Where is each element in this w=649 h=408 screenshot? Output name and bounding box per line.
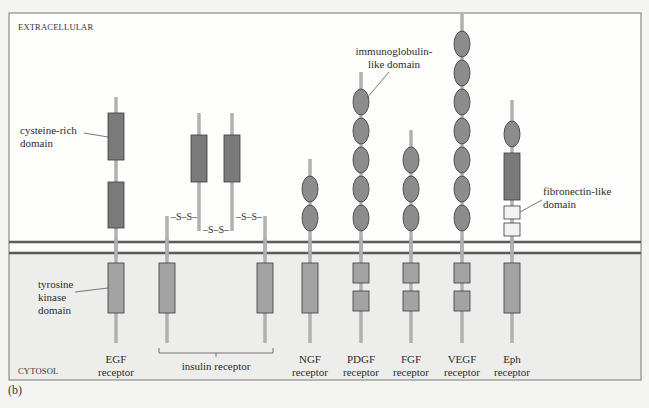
tyrosine-kinase-domain — [302, 263, 318, 313]
receptor-label-line1: Eph — [494, 353, 530, 366]
ig-domain — [353, 205, 369, 231]
ig-domain — [403, 147, 419, 173]
ig-domain — [454, 205, 470, 231]
tyrosine-kinase-domain — [257, 263, 273, 313]
kinase-domain-upper — [454, 263, 470, 283]
tyrosine-kinase-domain — [159, 263, 175, 313]
pdgf-receptor-label: PDGF receptor — [343, 353, 379, 379]
disulfide-bond-right: –S–S– — [236, 210, 262, 223]
panel-letter-b: (b) — [8, 383, 22, 398]
ig-domain — [454, 31, 470, 57]
ig-domain — [302, 205, 318, 231]
egf-receptor-label: EGF receptor — [98, 353, 134, 379]
ig-domain — [302, 176, 318, 202]
annotation-line: fibronectin-like — [543, 185, 611, 198]
kinase-domain-lower — [403, 291, 419, 311]
fibronectin-annotation: fibronectin-like domain — [543, 185, 611, 211]
kinase-domain-upper — [353, 263, 369, 283]
ig-domain — [403, 176, 419, 202]
ig-domain — [353, 118, 369, 144]
fibronectin-like-domain — [504, 223, 520, 236]
cysteine-rich-domain — [108, 113, 124, 160]
annotation-line: immunoglobulin- — [356, 45, 433, 58]
ig-domain — [454, 60, 470, 86]
fgf-receptor-label: FGF receptor — [393, 353, 429, 379]
cysteine-rich-domain — [504, 153, 520, 200]
annotation-line: cysteine-rich — [20, 124, 77, 137]
receptor-label-line2: receptor — [494, 366, 530, 379]
tyrosine-kinase-domain — [108, 263, 124, 313]
ig-domain — [353, 89, 369, 115]
disulfide-bond-middle: –S–S– — [203, 223, 229, 236]
receptor-label-line2: receptor — [292, 366, 328, 379]
insulin-receptor-label: insulin receptor — [182, 360, 251, 373]
cysteine-rich-domain — [108, 182, 124, 228]
receptor-label-line1: NGF — [292, 353, 328, 366]
fibronectin-like-domain — [504, 206, 520, 219]
ig-domain-annotation: immunoglobulin- like domain — [356, 45, 433, 71]
ig-domain — [454, 147, 470, 173]
ig-domain — [353, 147, 369, 173]
ig-domain — [504, 121, 520, 147]
annotation-line: tyrosine — [38, 278, 73, 291]
cysteine-rich-domain — [224, 135, 240, 182]
cysteine-rich-domain — [191, 135, 207, 182]
kinase-domain-upper — [403, 263, 419, 283]
receptor-label-line1: PDGF — [343, 353, 379, 366]
vegf-receptor-label: VEGF receptor — [444, 353, 480, 379]
kinase-domain-lower — [353, 291, 369, 311]
receptor-label-line2: receptor — [444, 366, 480, 379]
receptor-label-line2: receptor — [343, 366, 379, 379]
receptor-label-line1: EGF — [98, 353, 134, 366]
cytosol-label: CYTOSOL — [18, 366, 58, 376]
cysteine-rich-annotation: cysteine-rich domain — [20, 124, 77, 150]
annotation-line: domain — [543, 198, 611, 211]
annotation-line: domain — [20, 137, 77, 150]
receptor-label-line1: VEGF — [444, 353, 480, 366]
membrane-gap — [9, 242, 641, 253]
tyrosine-kinase-domain — [504, 263, 520, 313]
ig-domain — [353, 176, 369, 202]
ngf-receptor-label: NGF receptor — [292, 353, 328, 379]
tyrosine-kinase-annotation: tyrosine kinase domain — [38, 278, 73, 317]
annotation-line: domain — [38, 304, 73, 317]
ig-domain — [454, 89, 470, 115]
annotation-line: like domain — [356, 58, 433, 71]
annotation-line: kinase — [38, 291, 73, 304]
eph-receptor-label: Eph receptor — [494, 353, 530, 379]
ig-domain — [454, 118, 470, 144]
receptor-label-line1: FGF — [393, 353, 429, 366]
receptor-tyrosine-kinase-diagram: EXTRACELLULAR CYTOSOL (b) cysteine-rich … — [0, 0, 649, 408]
kinase-domain-lower — [454, 291, 470, 311]
receptor-label-line2: receptor — [98, 366, 134, 379]
extracellular-label: EXTRACELLULAR — [18, 22, 93, 32]
ig-domain — [454, 176, 470, 202]
receptor-label-line2: receptor — [393, 366, 429, 379]
disulfide-bond-left: –S–S– — [171, 210, 197, 223]
ig-domain — [403, 205, 419, 231]
